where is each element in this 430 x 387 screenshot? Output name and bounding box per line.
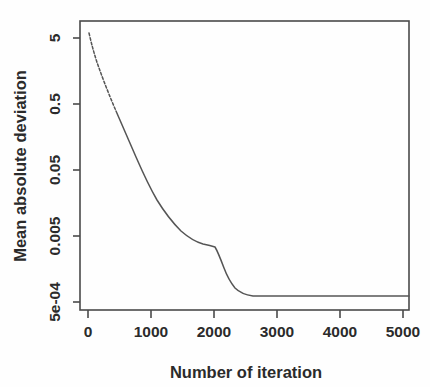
plot-frame — [80, 21, 409, 310]
chart-figure: Mean absolute deviation Number of iterat… — [0, 0, 430, 387]
y-tick-label-2: 0.05 — [46, 155, 63, 186]
y-tick-label-3: 0.005 — [46, 216, 63, 255]
y-axis-title: Mean absolute deviation — [11, 70, 29, 262]
y-tick-label-0: 5 — [46, 33, 63, 42]
x-tick-label-5: 5000 — [386, 323, 420, 340]
x-tick-label-1: 1000 — [134, 323, 168, 340]
y-tick-label-4: 5e-04 — [46, 282, 63, 322]
x-axis-title: Number of iteration — [170, 363, 322, 381]
chart-canvas: Mean absolute deviation Number of iterat… — [0, 0, 430, 387]
y-tick-label-1: 0.5 — [46, 93, 63, 115]
x-tick-label-4: 4000 — [323, 323, 357, 340]
x-tick-marks — [88, 310, 403, 318]
y-tick-marks — [73, 38, 80, 302]
data-curve — [116, 111, 409, 296]
x-tick-label-0: 0 — [84, 323, 93, 340]
data-curve-upper-segment — [89, 33, 116, 111]
x-tick-label-3: 3000 — [260, 323, 294, 340]
x-tick-label-2: 2000 — [197, 323, 231, 340]
